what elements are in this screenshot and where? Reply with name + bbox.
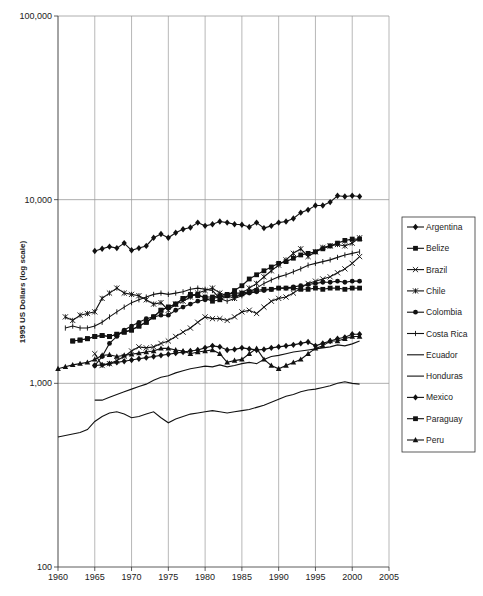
square-marker-icon bbox=[284, 286, 289, 291]
diamond-marker-icon bbox=[320, 202, 325, 208]
x-marker-icon bbox=[180, 330, 185, 335]
square-marker-icon bbox=[203, 295, 208, 300]
asterisk-marker-icon bbox=[63, 314, 68, 319]
diamond-marker-icon bbox=[269, 223, 274, 229]
square-marker-icon bbox=[247, 277, 252, 282]
x-tick-label: 2000 bbox=[342, 572, 362, 582]
square-marker-icon bbox=[239, 283, 244, 288]
square-marker-icon bbox=[335, 286, 340, 291]
square-marker-icon bbox=[181, 296, 186, 301]
series-honduras bbox=[58, 382, 360, 437]
square-marker-icon bbox=[328, 286, 333, 291]
square-marker-icon bbox=[107, 334, 112, 339]
diamond-marker-icon bbox=[114, 245, 119, 251]
diamond-marker-icon bbox=[232, 346, 237, 352]
y-axis-title: 1995 US Dollars (log scale) bbox=[18, 241, 27, 344]
circle-marker-icon bbox=[306, 282, 311, 287]
x-tick-label: 1985 bbox=[232, 572, 252, 582]
diamond-marker-icon bbox=[210, 221, 215, 227]
triangle-marker-icon bbox=[254, 345, 260, 350]
asterisk-marker-icon bbox=[269, 268, 274, 273]
asterisk-marker-icon bbox=[254, 281, 259, 286]
x-marker-icon bbox=[291, 290, 296, 295]
x-marker-icon bbox=[269, 299, 274, 304]
diamond-marker-icon bbox=[92, 248, 97, 254]
square-marker-icon bbox=[342, 238, 347, 243]
asterisk-marker-icon bbox=[70, 318, 75, 323]
square-marker-icon bbox=[129, 328, 134, 333]
x-marker-icon bbox=[173, 334, 178, 339]
asterisk-marker-icon bbox=[291, 251, 296, 256]
square-marker-icon bbox=[210, 295, 215, 300]
square-marker-icon bbox=[100, 333, 105, 338]
x-marker-icon bbox=[261, 305, 266, 310]
x-marker-icon bbox=[195, 320, 200, 325]
square-marker-icon bbox=[357, 286, 362, 291]
square-marker-icon bbox=[413, 246, 418, 251]
square-marker-icon bbox=[122, 330, 127, 335]
asterisk-marker-icon bbox=[305, 254, 310, 259]
triangle-marker-icon bbox=[246, 351, 252, 356]
legend-label: Belize bbox=[426, 243, 449, 253]
square-marker-icon bbox=[313, 286, 318, 291]
square-marker-icon bbox=[254, 288, 259, 293]
diamond-marker-icon bbox=[276, 344, 281, 350]
diamond-marker-icon bbox=[357, 193, 362, 199]
square-marker-icon bbox=[85, 336, 90, 341]
diamond-marker-icon bbox=[136, 245, 141, 251]
x-marker-icon bbox=[188, 325, 193, 330]
diamond-marker-icon bbox=[195, 219, 200, 225]
x-marker-icon bbox=[335, 270, 340, 275]
line-chart: 1960196519701975198019851990199520002005… bbox=[0, 0, 483, 596]
circle-marker-icon bbox=[335, 279, 340, 284]
x-marker-icon bbox=[158, 341, 163, 346]
square-marker-icon bbox=[247, 289, 252, 294]
y-tick-label: 10,000 bbox=[24, 195, 52, 205]
diamond-marker-icon bbox=[291, 342, 296, 348]
diamond-marker-icon bbox=[100, 246, 105, 252]
square-marker-icon bbox=[350, 286, 355, 291]
x-marker-icon bbox=[342, 266, 347, 271]
diamond-marker-icon bbox=[166, 235, 171, 241]
triangle-marker-icon bbox=[210, 347, 216, 352]
triangle-marker-icon bbox=[239, 356, 245, 361]
legend-label: Mexico bbox=[426, 392, 453, 402]
series-argentina bbox=[92, 193, 362, 255]
legend-label: Ecuador bbox=[426, 350, 458, 360]
circle-marker-icon bbox=[342, 280, 347, 285]
square-marker-icon bbox=[92, 334, 97, 339]
x-tick-label: 1965 bbox=[85, 572, 105, 582]
diamond-marker-icon bbox=[158, 352, 163, 358]
circle-marker-icon bbox=[166, 313, 171, 318]
square-marker-icon bbox=[166, 305, 171, 310]
circle-marker-icon bbox=[350, 279, 355, 284]
square-marker-icon bbox=[262, 287, 267, 292]
asterisk-marker-icon bbox=[298, 246, 303, 251]
diamond-marker-icon bbox=[129, 357, 134, 363]
square-marker-icon bbox=[114, 332, 119, 337]
square-marker-icon bbox=[232, 291, 237, 296]
diamond-marker-icon bbox=[261, 346, 266, 352]
legend-label: Peru bbox=[426, 435, 444, 445]
square-marker-icon bbox=[144, 320, 149, 325]
legend-label: Brazil bbox=[426, 265, 447, 275]
circle-marker-icon bbox=[195, 299, 200, 304]
diamond-marker-icon bbox=[225, 347, 230, 353]
asterisk-marker-icon bbox=[350, 241, 355, 246]
diamond-marker-icon bbox=[269, 345, 274, 351]
y-tick-label: 1,000 bbox=[29, 378, 52, 388]
square-marker-icon bbox=[225, 292, 230, 297]
square-marker-icon bbox=[306, 287, 311, 292]
square-marker-icon bbox=[239, 291, 244, 296]
asterisk-marker-icon bbox=[100, 296, 105, 301]
triangle-marker-icon bbox=[298, 356, 304, 361]
diamond-marker-icon bbox=[350, 193, 355, 199]
diamond-marker-icon bbox=[188, 224, 193, 230]
y-tick-label: 100,000 bbox=[19, 11, 52, 21]
circle-marker-icon bbox=[413, 310, 418, 315]
circle-marker-icon bbox=[107, 341, 112, 346]
diamond-marker-icon bbox=[217, 344, 222, 350]
x-marker-icon bbox=[254, 311, 259, 316]
square-marker-icon bbox=[342, 287, 347, 292]
square-marker-icon bbox=[291, 256, 296, 261]
